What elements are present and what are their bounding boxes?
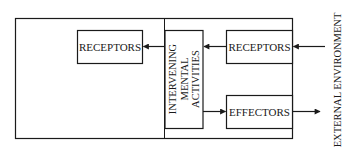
receptors-inner-box: RECEPTORS xyxy=(78,31,143,64)
mental-activities-box: INTERVENING MENTAL ACTIVITIES xyxy=(165,31,203,129)
mental-activities-label-line3: ACTIVITIES xyxy=(190,50,201,108)
external-environment-label: EXTERNAL ENVIRONMENT xyxy=(332,12,343,147)
mental-activities-label-line2: MENTAL xyxy=(179,58,190,101)
effectors-label: EFFECTORS xyxy=(229,106,290,118)
effectors-box: EFFECTORS xyxy=(227,96,293,129)
receptors-inner-label: RECEPTORS xyxy=(79,41,141,53)
receptors-outer-label: RECEPTORS xyxy=(228,41,290,53)
receptors-outer-box: RECEPTORS xyxy=(227,31,293,64)
diagram-canvas: RECEPTORS INTERVENING MENTAL ACTIVITIES … xyxy=(0,0,352,161)
mental-activities-label-line1: INTERVENING xyxy=(167,43,178,114)
